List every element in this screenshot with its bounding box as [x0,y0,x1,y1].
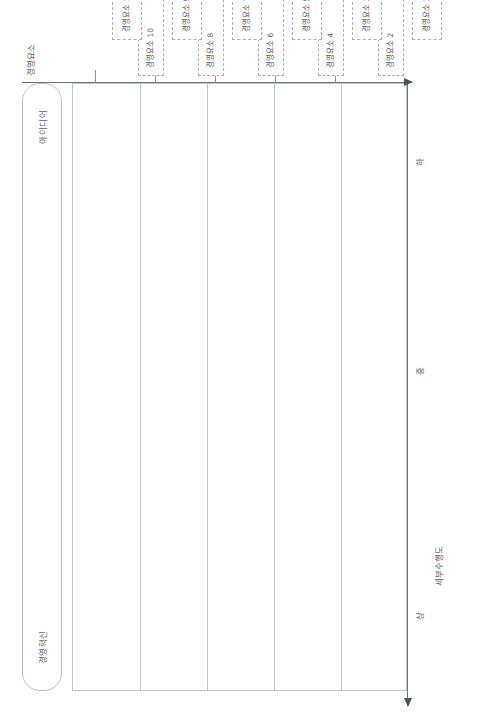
rotated-figure-stage: 경영혁신 아이디어 하 중 상 세부수행도 경영요소 경영요소 2 [0,0,482,726]
grid-row-divider [274,84,275,690]
element-box-label: 경영요소 3 [363,0,371,32]
idea-container: 경영혁신 아이디어 [22,83,62,691]
value-axis-title: 세부수행도 [432,546,444,586]
value-axis-tick-2: 상 [413,612,425,620]
category-axis-title: 경영요소 [24,44,36,76]
element-box-outer-9[interactable]: 경영요소 9 [172,0,202,40]
element-box-label: 경영요소 9 [183,0,191,32]
value-axis-tick-1: 중 [413,367,425,375]
category-axis-tick [95,70,96,83]
element-box-label: 경영요소 4 [327,33,335,68]
element-box-outer-7[interactable]: 경영요소 7 [232,0,262,40]
element-box-label: 경영요소 8 [207,33,215,68]
left-arrow-icon [404,698,412,707]
element-box-label: 경영요소 5 [303,0,311,32]
element-box-label: 경영요소 2 [387,33,395,68]
element-box-label: 경영요소 7 [243,0,251,32]
element-box-outer-3[interactable]: 경영요소 3 [352,0,382,40]
element-box-outer-5[interactable]: 경영요소 5 [292,0,322,40]
element-box-label: 경영요소 1 [423,0,431,32]
element-box-outer-11[interactable]: 경영요소 11 [112,0,142,40]
value-axis-tick-0: 하 [413,158,425,166]
container-label-left: 경영혁신 [23,630,63,664]
matrix-grid [72,83,407,691]
element-box-label: 경영요소 10 [147,28,155,68]
container-label-right: 아이디어 [23,110,63,144]
grid-row-divider [140,84,141,690]
grid-row-divider [341,84,342,690]
figure-page: 경영혁신 아이디어 하 중 상 세부수행도 경영요소 경영요소 2 [0,0,482,726]
element-box-label: 경영요소 11 [123,0,131,32]
grid-row-divider [207,84,208,690]
category-axis-line [22,82,412,83]
element-box-label: 경영요소 6 [267,33,275,68]
element-box-outer-1[interactable]: 경영요소 1 [412,0,442,40]
down-arrow-icon [404,78,413,86]
value-axis-line [407,81,408,706]
